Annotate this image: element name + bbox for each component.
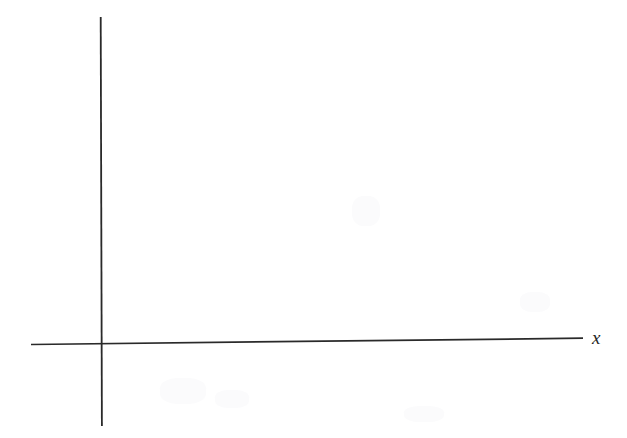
x-axis-line xyxy=(31,338,583,344)
axes-drawing xyxy=(0,0,627,438)
y-axis-line xyxy=(101,17,102,426)
figure-canvas: x xyxy=(0,0,627,438)
x-axis-label: x xyxy=(592,328,600,347)
